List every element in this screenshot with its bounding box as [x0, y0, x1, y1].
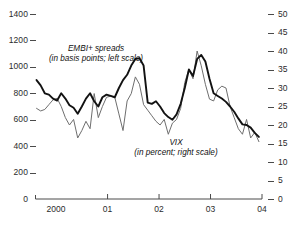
- embi-annotation-line1: EMBI+ spreads: [31, 44, 161, 54]
- embi-annotation-line2: (in basis points; left scale): [31, 54, 161, 64]
- vix-annotation-line1: VIX: [111, 138, 241, 148]
- plot-area: [0, 0, 306, 230]
- embi-annotation: EMBI+ spreads (in basis points; left sca…: [31, 44, 161, 64]
- vix-annotation: VIX (in percent; right scale): [111, 138, 241, 158]
- chart-figure: 0200400600800100012001400 05101520253035…: [0, 0, 306, 230]
- axis-lines: [36, 194, 263, 199]
- vix-annotation-line2: (in percent; right scale): [111, 148, 241, 158]
